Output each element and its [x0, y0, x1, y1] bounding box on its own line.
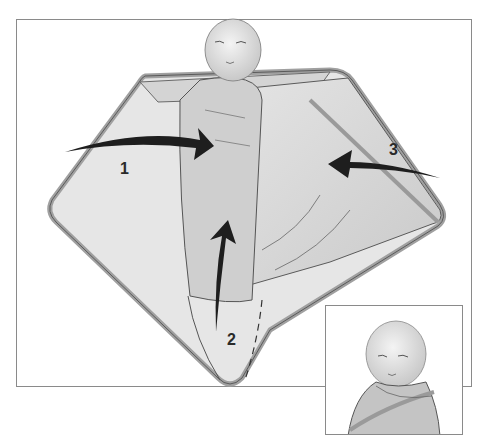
step-3-label: 3: [389, 141, 398, 159]
baby-head: [205, 19, 261, 81]
step-1-label: 1: [120, 160, 129, 178]
step-2-label: 2: [227, 331, 236, 349]
cropped-caption-text: [34, 414, 39, 423]
right-flap: [232, 78, 441, 290]
swaddled-baby-illustration: [326, 306, 463, 435]
inset-swaddled-baby-frame: [325, 305, 463, 435]
